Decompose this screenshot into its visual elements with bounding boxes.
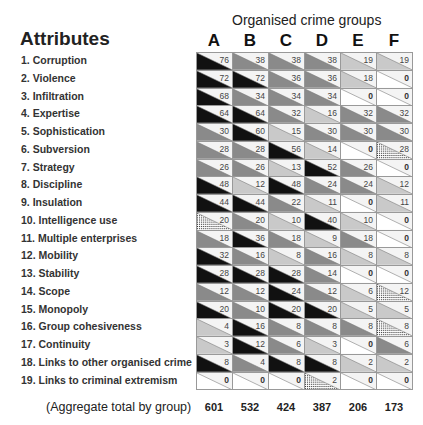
row-label: 2. Violence [21,70,192,88]
cell-value: 0 [368,91,373,101]
cell-value: 30 [220,126,229,136]
heatmap-cell: 0 [377,266,413,284]
heatmap-cell: 0 [341,337,377,355]
heatmap-cell: 12 [197,284,233,302]
heatmap-cell: 12 [233,337,269,355]
cell-value: 8 [404,250,409,260]
cell-value: 8 [404,321,409,331]
total-b: 532 [232,401,268,413]
heatmap-cell: 19 [377,53,413,71]
cell-value: 8 [296,250,301,260]
cell-value: 15 [292,126,301,136]
cell-value: 19 [364,55,373,65]
row-label: 11. Multiple enterprises [21,230,192,248]
cell-value: 26 [256,162,265,172]
cell-value: 20 [328,304,337,314]
row-label: 4. Expertise [21,105,192,123]
heatmap-cell: 32 [269,106,305,124]
heatmap-cell: 38 [269,53,305,71]
column-header-d: D [304,31,340,51]
heatmap-cell: 28 [269,266,305,284]
cell-value: 20 [220,304,229,314]
heatmap-cell: 13 [269,160,305,178]
heatmap-cell: 10 [233,302,269,320]
cell-value: 36 [256,233,265,243]
row-label: 5. Sophistication [21,123,192,141]
heatmap-cell: 2 [377,355,413,373]
table-row: 848822 [197,355,413,373]
heatmap-cell: 3 [197,337,233,355]
cell-value: 18 [364,73,373,83]
heatmap-cell: 48 [269,177,305,195]
heatmap-cell: 2 [341,355,377,373]
heatmap-cell: 12 [377,284,413,302]
cell-value: 72 [220,73,229,83]
table-row: 321681688 [197,248,413,266]
cell-value: 34 [256,91,265,101]
cell-value: 6 [404,339,409,349]
heatmap-grid: 7638383819197272363618068343434006464321… [196,52,413,390]
cell-value: 48 [292,179,301,189]
heatmap-cell: 30 [197,124,233,142]
cell-value: 11 [400,197,409,207]
cell-value: 16 [328,250,337,260]
cell-value: 68 [220,91,229,101]
cell-value: 12 [400,286,409,296]
cell-value: 32 [220,250,229,260]
heatmap-cell: 8 [305,355,341,373]
cell-value: 8 [332,321,337,331]
row-label: 19. Links to criminal extremism [21,372,192,390]
table-row: 26261352260 [197,160,413,178]
cell-value: 14 [328,144,337,154]
cell-value: 20 [256,215,265,225]
cell-value: 0 [368,375,373,385]
heatmap-cell: 10 [269,213,305,231]
heatmap-cell: 6 [341,284,377,302]
cell-value: 18 [292,233,301,243]
heatmap-cell: 0 [341,266,377,284]
cell-value: 12 [256,179,265,189]
cell-value: 28 [220,268,229,278]
column-header-b: B [232,31,268,51]
heatmap-cell: 34 [233,89,269,107]
cell-value: 0 [404,375,409,385]
cell-value: 3 [224,339,229,349]
cell-value: 12 [328,286,337,296]
heatmap-cell: 8 [377,319,413,337]
row-label: 6. Subversion [21,141,192,159]
heatmap-cell: 12 [305,284,341,302]
row-label: 8. Discipline [21,176,192,194]
column-header-c: C [268,31,304,51]
table-row: 72723636180 [197,71,413,89]
cell-value: 72 [256,73,265,83]
cell-value: 30 [328,126,337,136]
cell-value: 24 [364,179,373,189]
cell-value: 8 [224,357,229,367]
cell-value: 32 [400,108,409,118]
row-labels: 1. Corruption2. Violence3. Infiltration4… [21,52,192,389]
heatmap-cell: 26 [341,160,377,178]
heatmap-cell: 0 [377,213,413,231]
heatmap-cell: 18 [341,71,377,89]
heatmap-cell: 20 [233,213,269,231]
heatmap-cell: 8 [341,319,377,337]
heatmap-cell: 24 [269,284,305,302]
heatmap-cell: 52 [305,160,341,178]
heatmap-cell: 0 [341,373,377,391]
cell-value: 0 [404,268,409,278]
total-d: 387 [304,401,340,413]
cell-value: 0 [368,144,373,154]
heatmap-cell: 30 [305,124,341,142]
cell-value: 12 [256,339,265,349]
cell-value: 6 [296,339,301,349]
table-row: 28285614028 [197,142,413,160]
table-row: 2828281400 [197,266,413,284]
heatmap-cell: 2 [305,373,341,391]
cell-value: 14 [328,268,337,278]
heatmap-cell: 28 [377,142,413,160]
cell-value: 3 [332,339,337,349]
column-header-a: A [196,31,232,51]
heatmap-cell: 0 [341,89,377,107]
cell-value: 16 [256,321,265,331]
cell-value: 60 [256,126,265,136]
